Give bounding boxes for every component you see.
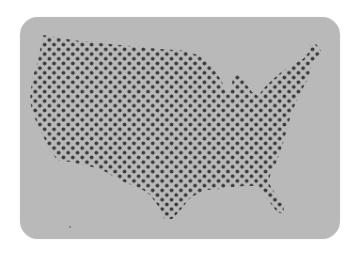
us-dot-map xyxy=(0,0,357,255)
dot-fill xyxy=(0,0,357,255)
speck xyxy=(69,226,71,228)
